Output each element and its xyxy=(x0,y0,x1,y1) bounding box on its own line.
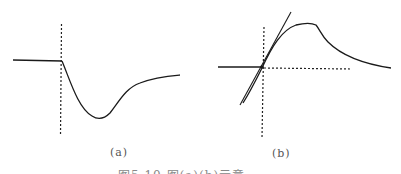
panel-a-baseline xyxy=(13,60,62,61)
panel-a-response-curve xyxy=(62,61,180,118)
figure-canvas xyxy=(0,0,401,174)
panel-b-intersection-point xyxy=(260,65,264,69)
figure-caption: 图5.10 图(a)(b)示意…… xyxy=(118,166,271,174)
panel-b-response-curve xyxy=(243,24,391,104)
panel-b-vertical-dashed-axis xyxy=(262,27,264,138)
panel-b-tangent-line xyxy=(240,12,291,105)
panel-a xyxy=(13,24,180,136)
panel-b-horizontal-dashed-axis xyxy=(264,68,352,69)
panel-b-label: (b) xyxy=(272,147,291,160)
panel-b xyxy=(218,12,391,138)
panel-a-dashed-marker xyxy=(61,24,62,136)
panel-a-label: (a) xyxy=(110,146,128,159)
